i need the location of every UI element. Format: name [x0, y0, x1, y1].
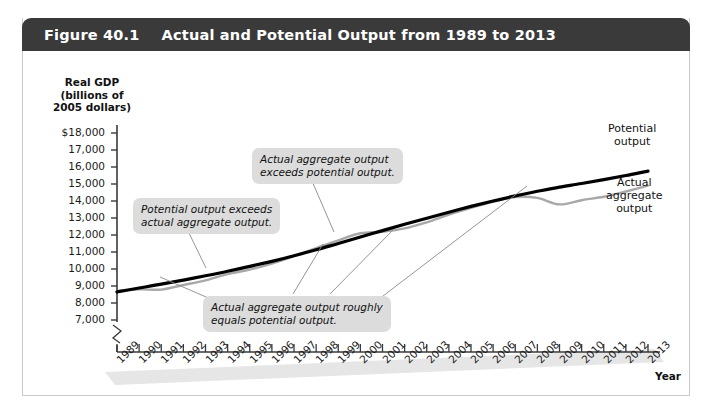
callout-leader-line — [383, 186, 527, 296]
callout-text-line: Actual aggregate output — [260, 153, 389, 165]
y-tick-label: $18,000 — [43, 126, 105, 138]
callout-text-line: actual aggregate output. — [141, 216, 272, 228]
y-tick-label: 10,000 — [43, 262, 105, 274]
actual-output-label: Actualaggregateoutput — [606, 176, 663, 215]
callout-potential-exceeds-actual: Potential output exceedsactual aggregate… — [133, 198, 280, 234]
callout-leader-line — [188, 231, 206, 268]
y-tick-label: 8,000 — [43, 296, 105, 308]
y-tick-label: 14,000 — [43, 194, 105, 206]
y-tick-label: 15,000 — [43, 177, 105, 189]
y-tick-label: 12,000 — [43, 228, 105, 240]
series-label-line: Potential — [608, 122, 656, 135]
callout-text-line: Actual aggregate output roughly — [211, 301, 383, 313]
series-label-line: output — [614, 135, 650, 148]
callout-actual-equals-potential: Actual aggregate output roughlyequals po… — [203, 296, 391, 332]
y-tick-label: 13,000 — [43, 211, 105, 223]
axis-break-icon — [113, 325, 121, 343]
callout-text-line: Potential output exceeds — [141, 203, 272, 215]
callout-text-line: exceeds potential output. — [260, 166, 395, 178]
series-label-line: aggregate — [606, 189, 663, 202]
callout-leader-line — [312, 181, 334, 232]
series-label-line: Actual — [617, 176, 651, 189]
figure-container: Figure 40.1 Actual and Potential Output … — [0, 0, 718, 412]
y-tick-label: 7,000 — [43, 313, 105, 325]
callout-text-line: equals potential output. — [211, 314, 337, 326]
y-tick-label: 17,000 — [43, 143, 105, 155]
y-tick-label: 11,000 — [43, 245, 105, 257]
y-tick-label: 16,000 — [43, 160, 105, 172]
callout-actual-exceeds-potential: Actual aggregate outputexceeds potential… — [252, 148, 403, 184]
potential-output-label: Potentialoutput — [608, 122, 656, 148]
series-label-line: output — [616, 202, 652, 215]
y-tick-label: 9,000 — [43, 279, 105, 291]
